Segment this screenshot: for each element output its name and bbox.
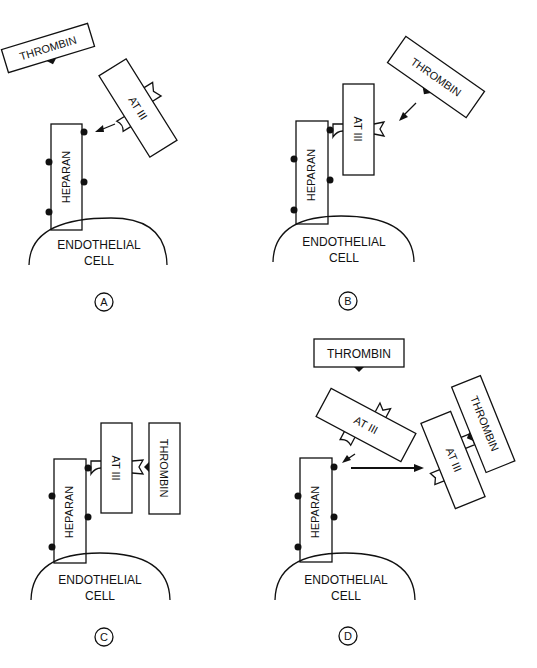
panel-label-a: A (95, 293, 113, 311)
panel-label-d: D (339, 627, 357, 645)
panel-b: THROMBIN AT III HEPARAN ENDOTHELIAL CELL (273, 36, 484, 310)
heparan-chain: HEPARAN (46, 124, 88, 230)
svg-text:AT III: AT III (110, 455, 122, 480)
svg-text:D: D (344, 630, 352, 642)
thrombin-binding-site (354, 367, 364, 372)
at3-molecule: AT III (333, 84, 384, 175)
at3-heparin-site (91, 461, 101, 474)
svg-text:HEPARAN: HEPARAN (60, 151, 72, 203)
endothelial-cell: ENDOTHELIAL CELL (29, 218, 167, 268)
at3-molecule: AT III (91, 423, 143, 513)
at3-heparin-site (333, 124, 343, 137)
panel-a: THROMBIN AT III HEPARAN ENDOTHELIAL (1, 23, 185, 311)
at3-thrombin-site (132, 460, 143, 474)
svg-text:HEPARAN: HEPARAN (309, 486, 321, 538)
thrombin-molecule-free: THROMBIN (314, 339, 404, 372)
endothelial-cell: ENDOTHELIAL CELL (31, 553, 170, 603)
svg-text:AT III: AT III (352, 116, 364, 141)
at3-molecule: AT III (91, 54, 185, 162)
svg-text:THROMBIN: THROMBIN (158, 439, 170, 498)
svg-text:ENDOTHELIAL: ENDOTHELIAL (302, 235, 386, 249)
panel-label-c: C (95, 628, 113, 646)
binding-arrow (399, 103, 416, 121)
svg-text:HEPARAN: HEPARAN (305, 149, 317, 201)
thrombin-molecule: THROMBIN (144, 423, 180, 514)
heparan-chain: HEPARAN (49, 459, 92, 563)
svg-text:CELL: CELL (331, 589, 361, 603)
binding-arrow (95, 124, 115, 132)
svg-text:CELL: CELL (329, 251, 359, 265)
heparan-chain: HEPARAN (295, 458, 338, 562)
release-arrow (351, 464, 424, 472)
diagram-canvas: THROMBIN AT III HEPARAN ENDOTHELIAL (0, 0, 537, 668)
svg-text:B: B (344, 295, 351, 307)
svg-text:ENDOTHELIAL: ENDOTHELIAL (57, 238, 141, 252)
heparan-chain: HEPARAN (291, 121, 334, 224)
thrombin-molecule: THROMBIN (385, 36, 485, 121)
svg-text:ENDOTHELIAL: ENDOTHELIAL (58, 573, 142, 587)
svg-text:ENDOTHELIAL: ENDOTHELIAL (304, 573, 388, 587)
panel-d: THROMBIN AT III AT III THROMBIN (275, 339, 523, 645)
svg-text:THROMBIN: THROMBIN (327, 347, 391, 361)
thrombin-molecule: THROMBIN (1, 23, 96, 77)
at3-thrombin-site (374, 122, 384, 136)
panel-c: AT III THROMBIN HEPARAN ENDOTHELIAL CELL… (31, 423, 180, 646)
endothelial-cell: ENDOTHELIAL CELL (275, 553, 415, 603)
panel-label-b: B (339, 292, 357, 310)
at3-molecule-free: AT III (312, 380, 421, 470)
at3-thrombin-complex: AT III THROMBIN (403, 376, 523, 513)
endothelial-cell: ENDOTHELIAL CELL (273, 216, 414, 265)
svg-text:CELL: CELL (85, 589, 115, 603)
svg-text:CELL: CELL (84, 254, 114, 268)
svg-text:A: A (100, 296, 108, 308)
svg-text:C: C (100, 631, 108, 643)
svg-text:HEPARAN: HEPARAN (63, 486, 75, 538)
thrombin-binding-site (144, 462, 149, 472)
binding-arrow (342, 454, 355, 463)
